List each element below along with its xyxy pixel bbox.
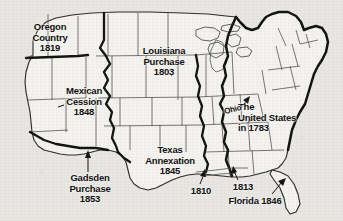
label-gadsden-purchase: Gadsden Purchase 1853 [59,173,121,205]
label-texas-annexation: Texas Annexation 1845 [140,145,200,177]
label-west-florida-1810: 1810 [186,186,216,197]
label-louisiana-purchase: Louisiana Purchase 1803 [133,46,195,78]
label-mexican-cession: Mexican Cession 1848 [57,86,111,118]
florida-peninsula [270,170,300,214]
territorial-expansion-map: Oregon Country 1819 Mexican Cession 1848… [0,0,343,221]
label-united-states-1783: The United States in 1783 [238,102,312,134]
label-oregon-country: Oregon Country 1819 [24,22,76,54]
label-mobile-1813: 1813 [228,182,258,193]
label-florida-1846: Florida 1846 [222,196,288,207]
